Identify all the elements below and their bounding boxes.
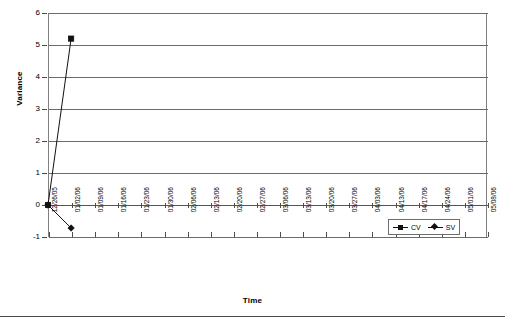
x-axis-tick [234,232,235,237]
x-axis-tick [72,203,73,208]
x-axis-tick [442,203,443,208]
variance-over-time-chart: Variance 6543210-1 12/26/0501/02/0601/09… [0,0,505,327]
y-axis-tick-label: 2 [22,137,40,145]
x-axis-tick [49,203,50,208]
x-axis-tick-label: 03/13/06 [305,187,312,241]
gridline [49,173,488,174]
y-axis-tick-label: 4 [22,73,40,81]
diamond-marker-icon [431,223,438,230]
x-axis-tick [257,203,258,208]
x-axis-tick [188,232,189,237]
diamond-marker-icon [428,224,443,231]
y-axis-tick [42,141,47,142]
y-axis-tick-label: 0 [22,201,40,209]
x-axis-tick [465,203,466,208]
gridline [49,77,488,78]
x-axis-tick [465,232,466,237]
x-axis-tick-label: 01/30/06 [167,187,174,241]
x-axis-tick [303,232,304,237]
y-axis-tick [42,45,47,46]
bottom-divider [0,316,505,317]
x-axis-tick [488,203,489,208]
x-axis-tick-label: 04/03/06 [374,187,381,241]
y-axis-tick-label: 3 [22,105,40,113]
x-axis-tick [188,203,189,208]
x-axis-tick-label: 05/01/06 [467,187,474,241]
legend-entry-sv[interactable]: SV [428,224,455,231]
x-axis-tick [165,203,166,208]
y-axis-title: Variance [15,44,24,134]
x-axis-tick-label: 03/06/06 [282,187,289,241]
chart-legend[interactable]: CVSV [388,219,460,235]
x-axis-tick [72,232,73,237]
x-axis-tick [396,203,397,208]
square-marker-icon [398,225,403,230]
x-axis-tick-label: 02/20/06 [236,187,243,241]
square-marker-icon [393,224,408,231]
y-axis-tick [42,205,47,206]
legend-label: SV [446,224,455,231]
y-axis-tick-label: 5 [22,41,40,49]
y-axis-tick [42,237,47,238]
x-axis-title: Time [0,296,505,305]
x-axis-tick-label: 05/08/06 [490,187,497,241]
y-axis-tick-label: 1 [22,169,40,177]
y-axis-tick-label: 6 [22,9,40,17]
x-axis-tick-label: 01/23/06 [143,187,150,241]
gridline [49,109,488,110]
x-axis-tick-label: 03/20/06 [328,187,335,241]
x-axis-tick [49,232,50,237]
x-axis-tick [234,203,235,208]
x-axis-tick [419,203,420,208]
x-axis-tick [211,203,212,208]
x-axis-tick-label: 02/13/06 [213,187,220,241]
x-axis-tick [488,232,489,237]
x-axis-tick [257,232,258,237]
x-axis-tick-label: 03/27/06 [351,187,358,241]
x-axis-tick-label: 02/27/06 [259,187,266,241]
x-axis-tick-label: 02/06/06 [190,187,197,241]
gridline [49,13,488,14]
gridline [49,141,488,142]
y-axis-tick [42,109,47,110]
x-axis-tick [280,203,281,208]
x-axis-tick-label: 12/26/05 [51,187,58,241]
legend-entry-cv[interactable]: CV [393,224,421,231]
y-axis-tick [42,13,47,14]
x-axis-tick [303,203,304,208]
y-axis-tick [42,77,47,78]
y-axis-tick [42,173,47,174]
legend-label: CV [411,224,421,231]
x-axis-tick [211,232,212,237]
x-axis-tick-label: 01/09/06 [97,187,104,241]
gridline [49,45,488,46]
x-axis-tick-label: 01/16/06 [120,187,127,241]
y-axis-tick-label: -1 [22,233,40,241]
x-axis-tick-label: 01/02/06 [74,187,81,241]
x-axis-tick [280,232,281,237]
x-axis-tick [165,232,166,237]
